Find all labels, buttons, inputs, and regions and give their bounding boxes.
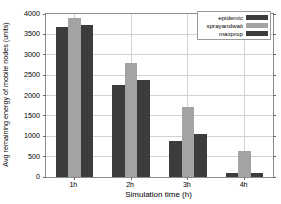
y-axis-tick-label: 3000 [24, 50, 40, 57]
legend-item-sprayandwait: sprayandwait [200, 22, 268, 29]
legend-item-maxprop: maxprop [200, 30, 268, 37]
bar-epidemic-3h [169, 141, 182, 177]
y-axis-tick [43, 54, 46, 55]
y-axis-tick [273, 34, 276, 35]
y-axis-tick-label: 2500 [24, 71, 40, 78]
y-axis-tick-label: 2000 [24, 91, 40, 98]
x-axis-tick-label: 4h [240, 180, 248, 189]
y-axis-tick [43, 75, 46, 76]
y-axis-tick-labels: 05001000150020002500300035004000 [14, 13, 43, 176]
bar-sprayandwait-3h [182, 107, 195, 177]
y-axis-tick [43, 115, 46, 116]
x-axis-tick-label: 1h [69, 180, 77, 189]
y-axis-tick [273, 54, 276, 55]
y-axis-tick [43, 136, 46, 137]
y-axis-tick-label: 1000 [24, 132, 40, 139]
bar-epidemic-4h [226, 173, 239, 177]
x-axis-title: Simulation time (h) [45, 190, 272, 200]
legend-item-epidemic: epidemic [200, 14, 268, 21]
y-axis-tick-label: 0 [36, 173, 40, 180]
legend-swatch-epidemic [246, 15, 268, 20]
y-axis-tick [43, 156, 46, 157]
bar-maxprop-1h [81, 25, 94, 177]
bar-chart-figure: Avg remaining energy of mobile nodes (un… [0, 0, 281, 204]
y-axis-tick [43, 177, 46, 178]
bar-epidemic-2h [112, 85, 125, 178]
y-axis-tick [273, 177, 276, 178]
legend-swatch-maxprop [246, 31, 268, 36]
bar-epidemic-1h [56, 27, 69, 177]
legend-label: epidemic [218, 14, 243, 21]
y-axis-tick [273, 95, 276, 96]
bar-sprayandwait-2h [125, 63, 138, 178]
x-axis-tick-labels: 1h2h3h4h [45, 180, 272, 190]
y-axis-title: Avg remaining energy of mobile nodes (un… [0, 13, 12, 176]
legend-swatch-sprayandwait [246, 23, 268, 28]
x-axis-tick-label: 3h [183, 180, 191, 189]
y-axis-tick-label: 3500 [24, 30, 40, 37]
bar-maxprop-3h [194, 134, 207, 177]
y-axis-tick [273, 115, 276, 116]
y-axis-tick-label: 500 [28, 152, 40, 159]
bar-maxprop-4h [251, 173, 264, 177]
bar-maxprop-2h [137, 80, 150, 177]
y-axis-tick-label: 4000 [24, 10, 40, 17]
y-axis-tick [43, 34, 46, 35]
bar-sprayandwait-1h [68, 18, 81, 177]
y-axis-tick-label: 1500 [24, 111, 40, 118]
legend-label: maxprop [219, 30, 243, 37]
y-axis-tick [43, 14, 46, 15]
y-axis-tick [273, 136, 276, 137]
y-axis-tick [43, 95, 46, 96]
x-axis-tick-label: 2h [126, 180, 134, 189]
y-axis-tick [273, 14, 276, 15]
y-axis-tick [273, 156, 276, 157]
legend-label: sprayandwait [207, 22, 243, 29]
y-axis-tick [273, 75, 276, 76]
chart-legend: epidemicsprayandwaitmaxprop [197, 11, 271, 40]
bar-sprayandwait-4h [238, 151, 251, 177]
